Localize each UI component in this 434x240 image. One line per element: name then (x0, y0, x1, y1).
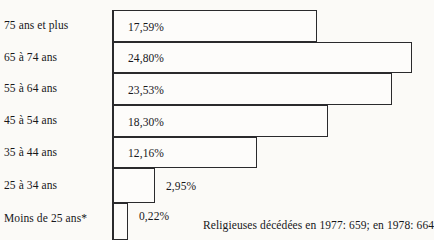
bar-value-55-64: 23,53% (128, 85, 164, 97)
category-label-25-34: 25 à 34 ans (4, 180, 57, 192)
bar-value-65-74: 24,80% (128, 53, 164, 65)
bar-value-35-44: 12,16% (128, 148, 164, 160)
category-label-55-64: 55 à 64 ans (4, 83, 57, 95)
bar-moins-25 (113, 203, 128, 240)
bar-value-75-et-plus: 17,59% (128, 22, 164, 34)
category-label-45-54: 45 à 54 ans (4, 115, 57, 127)
bar-25-34 (113, 168, 155, 203)
category-label-35-44: 35 à 44 ans (4, 147, 57, 159)
chart-footnote: Religieuses décédées en 1977: 659; en 19… (203, 220, 434, 232)
bar-value-45-54: 18,30% (128, 117, 164, 129)
bar-value-25-34: 2,95% (166, 181, 196, 193)
category-label-75-et-plus: 75 ans et plus (4, 20, 68, 32)
category-label-65-74: 65 à 74 ans (4, 52, 57, 64)
bar-value-moins-25: 0,22% (139, 211, 169, 223)
category-label-moins-25: Moins de 25 ans* (4, 213, 87, 225)
